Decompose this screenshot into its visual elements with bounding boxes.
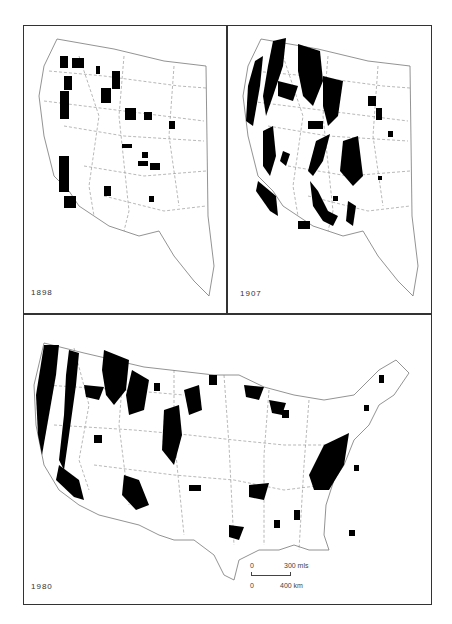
scale-miles-label: 300 mls — [284, 562, 309, 569]
scale-miles-zero: 0 — [250, 562, 254, 569]
map-panel-1898: 1898 — [24, 26, 226, 313]
map-panel-1980: 1980 — [24, 315, 431, 604]
western-us-map-1898 — [24, 26, 226, 313]
scale-km-zero: 0 — [250, 582, 254, 589]
western-us-map-1907 — [228, 26, 431, 313]
contiguous-us-map-1980 — [24, 315, 431, 604]
scale-km-label: 400 km — [280, 582, 303, 589]
year-label-1898: 1898 — [31, 288, 53, 297]
year-label-1907: 1907 — [240, 289, 262, 298]
scale-bar: 0 300 mls 0 400 km — [250, 562, 330, 602]
scale-line — [251, 575, 291, 576]
map-panel-1907: 1907 — [228, 26, 431, 313]
scale-tick-right — [290, 572, 291, 576]
year-label-1980: 1980 — [31, 582, 53, 591]
